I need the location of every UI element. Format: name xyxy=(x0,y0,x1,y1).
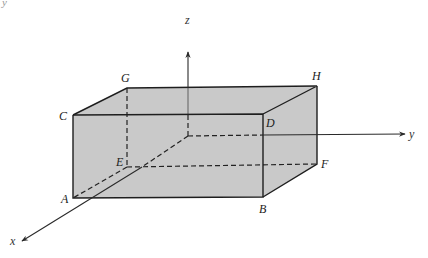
vertex-label-g: G xyxy=(121,71,130,85)
x-axis-label: x xyxy=(9,234,16,248)
front-face xyxy=(73,114,263,198)
vertex-label-a: A xyxy=(60,192,69,206)
vertex-label-f: F xyxy=(320,157,329,171)
corner-fragment-text: y xyxy=(1,0,7,8)
vertex-label-d: D xyxy=(265,116,275,130)
y-axis-label: y xyxy=(408,127,415,141)
vertex-label-c: C xyxy=(59,109,68,123)
z-axis-label: z xyxy=(184,13,190,27)
vertex-label-h: H xyxy=(311,69,322,83)
vertex-label-e: E xyxy=(115,155,124,169)
box-diagram: y z y x C G H D E F A B xyxy=(0,0,428,258)
vertex-label-b: B xyxy=(259,202,267,216)
